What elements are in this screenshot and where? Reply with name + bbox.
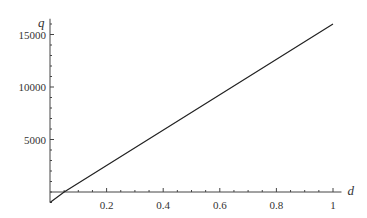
- x-tick-label: 0.2: [100, 199, 114, 211]
- plot-area: [50, 24, 333, 203]
- y-tick-label: 15000: [19, 29, 47, 41]
- y-axis-label: q: [38, 15, 45, 30]
- y-tick-label: 5000: [24, 134, 47, 146]
- x-tick-label: 0.6: [213, 199, 227, 211]
- data-line: [50, 24, 333, 203]
- axes: 0.20.40.60.8150001000015000: [19, 19, 342, 211]
- x-axis-label: d: [347, 183, 354, 198]
- line-chart: 0.20.40.60.8150001000015000 d q: [0, 0, 367, 218]
- x-tick-label: 0.4: [156, 199, 170, 211]
- x-tick-label: 1: [330, 199, 336, 211]
- x-tick-label: 0.8: [270, 199, 284, 211]
- y-tick-label: 10000: [19, 81, 47, 93]
